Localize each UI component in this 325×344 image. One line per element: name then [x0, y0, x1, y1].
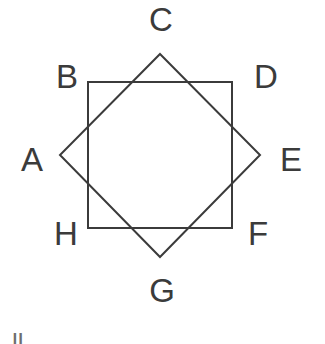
partial-text-artifact: ll — [12, 330, 52, 344]
vertex-label-c: C — [136, 3, 186, 36]
vertex-label-b: B — [42, 60, 92, 93]
vertex-label-f: F — [233, 217, 283, 250]
vertex-label-a: A — [7, 143, 57, 176]
vertex-label-e: E — [266, 143, 316, 176]
vertex-label-h: H — [41, 217, 91, 250]
geometric-figure-container: A B C D E F G H ll — [0, 0, 325, 344]
vertex-label-d: D — [241, 60, 291, 93]
vertex-label-g: G — [137, 274, 187, 307]
